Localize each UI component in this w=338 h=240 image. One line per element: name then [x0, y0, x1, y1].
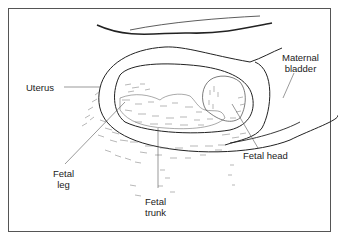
label-maternal-text: Maternal	[282, 52, 319, 63]
ultrasound-diagram	[0, 0, 338, 240]
maternal-bladder-leader	[283, 73, 294, 98]
label-fetal-trunk-line1: Fetal	[145, 196, 166, 207]
fetal-trunk-shape	[120, 94, 225, 129]
label-uterus: Uterus	[26, 82, 54, 93]
label-uterus-text: Uterus	[26, 82, 54, 93]
label-fetal-leg-line2: leg	[53, 179, 74, 190]
label-fetal-head-text: Fetal head	[243, 150, 288, 161]
label-fetal-leg-line1: Fetal	[53, 168, 74, 179]
label-bladder-text: bladder	[282, 63, 319, 74]
maternal-bladder-outline	[225, 48, 282, 145]
label-fetal-trunk-line2: trunk	[145, 207, 166, 218]
abdominal-wall-line	[97, 23, 272, 34]
echo-hatching	[82, 84, 246, 196]
label-fetal-leg: Fetal leg	[53, 168, 74, 190]
label-maternal-bladder: Maternal bladder	[282, 52, 319, 74]
label-fetal-trunk: Fetal trunk	[145, 196, 166, 218]
gestational-sac	[115, 64, 254, 133]
label-fetal-head: Fetal head	[243, 150, 288, 161]
abdominal-wall-line-upper	[130, 16, 260, 30]
fetal-head-shape	[203, 76, 246, 121]
